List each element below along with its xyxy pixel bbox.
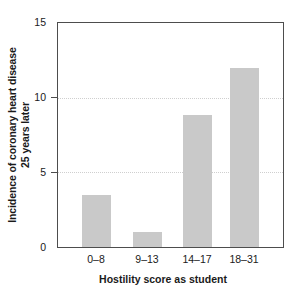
y-axis-title: Incidence of coronary heart disease 25 y… (6, 47, 32, 223)
y-tick-label-0: 0 (12, 242, 46, 253)
y-tick-label-10: 10 (12, 92, 46, 103)
y-axis-title-line1: Incidence of coronary heart disease (6, 47, 18, 223)
y-tick-label-15: 15 (12, 17, 46, 28)
y-tick-label-5: 5 (12, 167, 46, 178)
bar-2 (183, 115, 212, 247)
bar-1 (133, 232, 162, 247)
bar-0 (82, 195, 111, 247)
x-tick-label-3: 18–31 (214, 253, 274, 265)
y-axis-title-line2: 25 years later (19, 47, 32, 223)
y-axis-title-container: Incidence of coronary heart disease 25 y… (0, 0, 38, 270)
plot-area (57, 22, 284, 248)
x-axis-title: Hostility score as student (38, 273, 288, 285)
bar-3 (230, 68, 259, 247)
bar-chart-figure: Incidence of coronary heart disease 25 y… (0, 0, 300, 298)
